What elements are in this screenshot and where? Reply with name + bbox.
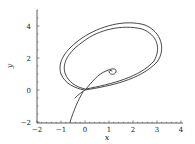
x-tick-label: −1 (56, 126, 66, 134)
y-axis-label: y (5, 63, 14, 69)
tick-marks (37, 10, 181, 123)
y-tick-label: 4 (27, 23, 32, 31)
y-tick-label: 0 (27, 87, 31, 95)
x-tick-label: −2 (32, 126, 42, 134)
x-tick-label: 4 (179, 126, 184, 134)
trajectory (60, 23, 162, 122)
y-tick-label: −2 (21, 119, 31, 127)
x-tick-label: 2 (131, 126, 135, 134)
outer-loop (60, 23, 162, 90)
y-tick-label: 2 (27, 55, 31, 63)
axes (37, 10, 183, 123)
x-tick-label: 3 (155, 126, 159, 134)
inner-loop (64, 27, 157, 89)
x-tick-label: 0 (83, 126, 87, 134)
phase-plot: −2−101234−2024 x y (0, 0, 195, 144)
x-axis-label: x (105, 133, 110, 142)
tick-labels: −2−101234−2024 (21, 23, 184, 135)
